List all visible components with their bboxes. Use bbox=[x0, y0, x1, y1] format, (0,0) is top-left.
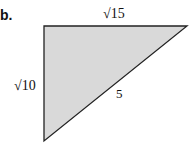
hypotenuse-label: 5 bbox=[116, 86, 123, 102]
left-side-label: √10 bbox=[14, 78, 36, 94]
right-triangle-diagram bbox=[0, 0, 189, 143]
top-side-label: √15 bbox=[103, 6, 125, 22]
triangle-shape bbox=[44, 26, 187, 141]
